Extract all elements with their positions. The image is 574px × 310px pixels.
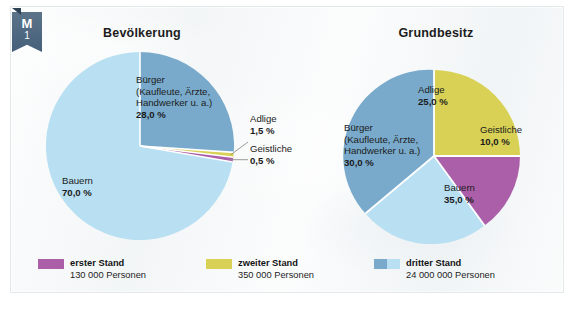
label-geistliche-bevoelkerung: Geistliche 0,5 % <box>250 143 292 166</box>
legend-label-dritter-stand: dritter Stand <box>406 258 461 268</box>
label-adlige-bevoelkerung: Adlige 1,5 % <box>250 113 277 136</box>
legend-swatch-zweiter-stand <box>206 259 232 269</box>
legend-sub-erster-stand: 130 000 Personen <box>70 270 146 280</box>
label-buerger-name: Bürger <box>136 74 212 86</box>
label-geistliche-pct: 0,5 % <box>250 155 292 167</box>
infographic-page: M 1 Bevölkerung Grundbesitz Bürger (Kauf… <box>0 0 574 310</box>
label-adlige-name: Adlige <box>250 113 277 125</box>
label-buerger-detail-2: Handwerker u. a.) <box>136 97 212 109</box>
label-bauern-pct: 35,0 % <box>444 194 475 206</box>
label-buerger-detail-1: (Kaufleute, Ärzte, <box>344 134 420 146</box>
legend-swatch-erster-stand <box>38 259 64 269</box>
label-bauern-pct: 70,0 % <box>62 187 93 199</box>
label-adlige-grundbesitz: Adlige 25,0 % <box>418 84 448 107</box>
badge-letter: M <box>12 17 42 30</box>
label-adlige-name: Adlige <box>418 84 448 96</box>
legend-sub-zweiter-stand: 350 000 Personen <box>238 270 314 280</box>
label-adlige-pct: 1,5 % <box>250 125 277 137</box>
legend-label-erster-stand: erster Stand <box>70 258 124 268</box>
label-buerger-detail-1: (Kaufleute, Ärzte, <box>136 86 212 98</box>
legend-sub-dritter-stand: 24 000 000 Personen <box>406 270 495 280</box>
label-geistliche-pct: 10,0 % <box>480 136 522 148</box>
chart-title-bevoelkerung: Bevölkerung <box>52 26 232 40</box>
label-bauern-grundbesitz: Bauern 35,0 % <box>444 182 475 205</box>
legend: erster Stand 130 000 Personen zweiter St… <box>38 258 538 288</box>
chart-title-grundbesitz: Grundbesitz <box>348 26 524 40</box>
label-buerger-pct: 30,0 % <box>344 157 420 169</box>
label-buerger-pct: 28,0 % <box>136 109 212 121</box>
label-bauern-bevoelkerung: Bauern 70,0 % <box>62 175 93 198</box>
label-geistliche-grundbesitz: Geistliche 10,0 % <box>480 124 522 147</box>
material-badge-m1: M 1 <box>12 8 42 52</box>
label-bauern-name: Bauern <box>62 175 93 187</box>
legend-label-zweiter-stand: zweiter Stand <box>238 258 298 268</box>
label-geistliche-name: Geistliche <box>250 143 292 155</box>
label-adlige-pct: 25,0 % <box>418 96 448 108</box>
label-buerger-name: Bürger <box>344 122 420 134</box>
badge-number: 1 <box>12 31 42 41</box>
label-geistliche-name: Geistliche <box>480 124 522 136</box>
label-buerger-detail-2: Handwerker u. a.) <box>344 145 420 157</box>
label-buerger-grundbesitz: Bürger (Kaufleute, Ärzte, Handwerker u. … <box>344 122 420 168</box>
label-buerger-bevoelkerung: Bürger (Kaufleute, Ärzte, Handwerker u. … <box>136 74 212 120</box>
label-bauern-name: Bauern <box>444 182 475 194</box>
legend-swatch-dritter-stand <box>374 259 400 269</box>
